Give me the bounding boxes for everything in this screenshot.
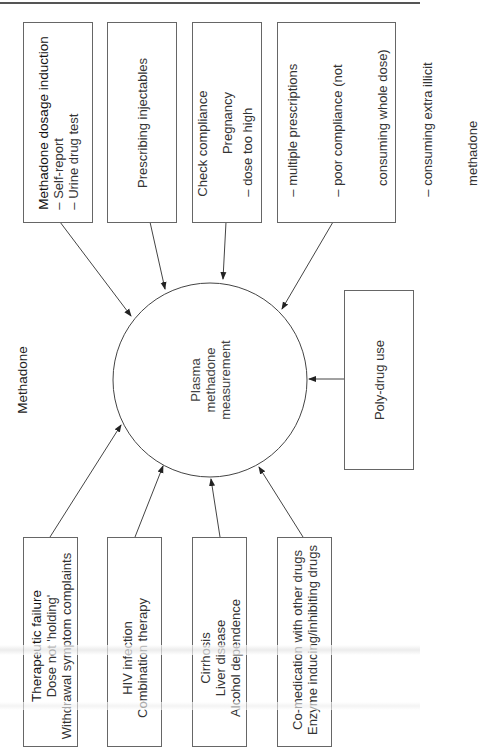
box-line: – multiple prescriptions bbox=[284, 49, 299, 196]
box-check-compliance-text: Check compliance – dose too high – multi… bbox=[164, 49, 482, 196]
box-co-medication: Co-medication with other drugs Enzyme in… bbox=[277, 537, 332, 747]
box-line: HIV infection bbox=[120, 598, 135, 718]
box-check-compliance: Check compliance – dose too high – multi… bbox=[277, 22, 396, 223]
box-hiv-infection: HIV infection Combination therapy bbox=[107, 537, 162, 747]
center-line-2: methadone bbox=[203, 340, 218, 419]
scan-artifact bbox=[0, 702, 420, 710]
box-line: – consuming extra illicit bbox=[419, 49, 434, 196]
box-line: Liver disease bbox=[212, 599, 227, 717]
center-line-1: Plasma bbox=[188, 340, 203, 419]
scan-artifact bbox=[0, 645, 420, 655]
box-hiv-infection-text: HIV infection Combination therapy bbox=[120, 598, 150, 718]
box-line: – Urine drug test bbox=[66, 36, 81, 209]
box-dosage-induction: Methadone dosage induction – Self-report… bbox=[23, 22, 93, 223]
box-line: – poor compliance (not bbox=[329, 49, 344, 196]
box-poly-drug-use-text: Poly-drug use bbox=[372, 340, 387, 420]
box-prescribing-injectables-text: Prescribing injectables bbox=[135, 57, 150, 187]
center-node-label: Plasma methadone measurement bbox=[188, 340, 233, 419]
box-poly-drug-use: Poly-drug use bbox=[344, 290, 414, 470]
box-line: methadone bbox=[464, 49, 479, 196]
box-line: Cirrhosis bbox=[197, 599, 212, 717]
box-cirrhosis: Cirrhosis Liver disease Alcohol dependen… bbox=[192, 537, 247, 747]
box-line: Check compliance bbox=[194, 49, 209, 196]
box-cirrhosis-text: Cirrhosis Liver disease Alcohol dependen… bbox=[197, 599, 242, 717]
box-line: Prescribing injectables bbox=[135, 57, 150, 187]
box-heading: Methadone dosage induction bbox=[36, 36, 51, 209]
box-dosage-induction-text: Methadone dosage induction – Self-report… bbox=[36, 36, 81, 209]
box-line: Combination therapy bbox=[135, 598, 150, 718]
center-line-3: measurement bbox=[218, 340, 233, 419]
box-line: consuming whole dose) bbox=[374, 49, 389, 196]
box-therapeutic-failure: Therapeutic failure Dose not 'holding' W… bbox=[23, 537, 78, 747]
box-line: Alcohol dependence bbox=[227, 599, 242, 717]
diagram-title: Methadone bbox=[15, 346, 30, 414]
box-line: Poly-drug use bbox=[372, 340, 387, 420]
box-line: – dose too high bbox=[239, 49, 254, 196]
box-line: – Self-report bbox=[51, 36, 66, 209]
